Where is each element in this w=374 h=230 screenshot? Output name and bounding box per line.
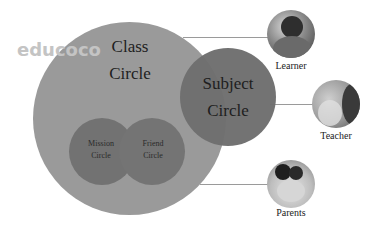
learner-label: Learner	[261, 60, 321, 71]
connector-teacher	[270, 104, 314, 105]
parents-photo-icon	[267, 160, 315, 208]
class-circle-label: Class Circle	[104, 33, 156, 87]
subject-circle-label-line1: Subject	[190, 70, 266, 97]
friend-circle-label: Friend Circle	[124, 138, 182, 162]
teacher-photo-icon	[312, 80, 360, 128]
mission-circle-label: Mission Circle	[72, 138, 130, 162]
friend-circle-label-line1: Friend	[124, 138, 182, 150]
educoco-watermark: educoco	[17, 39, 101, 60]
class-circle-label-line2: Circle	[104, 60, 156, 87]
parents-label: Parents	[261, 207, 321, 218]
teacher-label: Teacher	[306, 130, 366, 141]
subject-circle-label-line2: Circle	[190, 97, 266, 124]
learner-photo-icon	[267, 10, 315, 58]
mission-circle-label-line2: Circle	[72, 150, 130, 162]
connector-parents	[200, 184, 269, 185]
friend-circle-label-line2: Circle	[124, 150, 182, 162]
mission-circle-label-line1: Mission	[72, 138, 130, 150]
connector-learner	[183, 37, 269, 38]
subject-circle-label: Subject Circle	[190, 70, 266, 124]
class-circle-label-line1: Class	[104, 33, 156, 60]
